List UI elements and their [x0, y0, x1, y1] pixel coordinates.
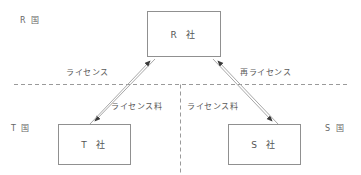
node-company-r-label: R 社: [170, 28, 197, 41]
edge-label-license-fee-left: ライセンス料: [111, 100, 162, 111]
region-label-t-country: T 国: [11, 122, 31, 133]
edge-label-license: ライセンス: [66, 66, 109, 77]
edge-label-sublicense: 再ライセンス: [240, 66, 291, 77]
region-label-r-country: R 国: [20, 14, 41, 25]
node-company-r: R 社: [147, 11, 221, 57]
node-company-s: S 社: [228, 124, 301, 165]
node-company-s-label: S 社: [251, 138, 278, 151]
region-label-s-country: S 国: [325, 122, 345, 133]
edge-label-license-fee-right: ライセンス料: [187, 100, 238, 111]
diagram-canvas: R 社 T 社 S 社 R 国 T 国 S 国 ライセンス 再ライセンス ライセ…: [0, 0, 361, 175]
node-company-t: T 社: [58, 124, 131, 165]
node-company-t-label: T 社: [81, 138, 107, 151]
